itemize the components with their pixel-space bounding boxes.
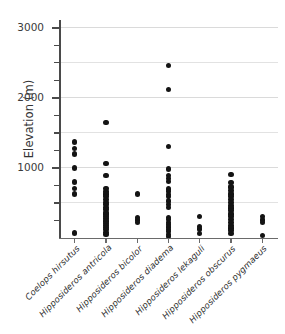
data-point — [72, 191, 77, 196]
y-tick-major — [52, 27, 59, 29]
y-axis-title: Elevation (m) — [22, 39, 36, 199]
x-axis-label-2: Hipposideros antricola — [37, 243, 114, 320]
x-axis-label-4: Hipposideros diadema — [99, 243, 175, 319]
data-point — [166, 87, 171, 92]
scatter-plot-figure: Elevation (m) 100020003000 Coelops hirsu… — [0, 0, 285, 334]
x-tick — [137, 239, 138, 243]
x-axis-label-5: Hipposideros lekaguli — [133, 243, 207, 317]
data-point — [72, 186, 77, 191]
x-tick — [199, 239, 200, 243]
data-point — [135, 191, 140, 196]
data-point — [72, 151, 77, 156]
gridline — [60, 27, 278, 28]
x-tick — [168, 239, 169, 243]
y-tick-major — [52, 167, 59, 169]
data-point — [103, 161, 108, 166]
data-point — [166, 144, 171, 149]
data-point — [103, 173, 108, 178]
x-axis-line — [59, 238, 278, 240]
data-point — [166, 205, 171, 210]
data-point — [72, 165, 77, 170]
data-point — [135, 220, 140, 225]
x-axis-label-6: Hipposideros obscurus — [160, 243, 237, 320]
data-point — [166, 63, 171, 68]
x-tick — [74, 239, 75, 243]
data-point — [166, 179, 171, 184]
x-axis-label-7: Hipposideros pygmaeus — [187, 243, 269, 325]
x-axis-label-1: Coelops hirsutus — [23, 243, 82, 302]
gridline — [60, 132, 278, 133]
plot-area: 100020003000 — [59, 20, 278, 239]
x-tick — [262, 239, 263, 243]
y-tick-major — [52, 97, 59, 99]
data-point — [72, 146, 77, 151]
y-tick-label: 2000 — [17, 91, 44, 103]
data-point — [228, 231, 233, 236]
data-point — [228, 172, 233, 177]
x-tick — [105, 239, 106, 243]
x-tick — [230, 239, 231, 243]
data-point — [72, 139, 77, 144]
data-point — [103, 120, 108, 125]
data-point — [197, 231, 202, 236]
data-point — [72, 230, 77, 235]
data-point — [197, 214, 202, 219]
data-point — [103, 232, 108, 237]
y-axis-line — [59, 20, 61, 239]
gridline — [60, 97, 278, 98]
data-point — [166, 166, 171, 171]
x-axis-label-3: Hipposideros bicolor — [74, 243, 144, 313]
y-tick-label: 1000 — [17, 161, 44, 173]
y-tick-label: 3000 — [17, 21, 44, 33]
data-point — [72, 179, 77, 184]
data-point — [260, 220, 265, 225]
